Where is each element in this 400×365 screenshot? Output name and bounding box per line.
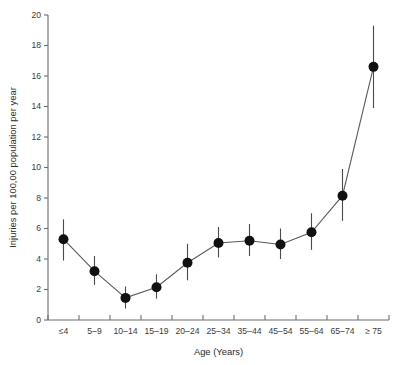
y-tick-label: 2 — [36, 284, 41, 294]
data-point-marker — [59, 234, 69, 244]
data-point-marker — [152, 282, 162, 292]
x-tick-label: 5–9 — [87, 326, 102, 336]
data-point-marker — [121, 293, 131, 303]
y-tick-label: 6 — [36, 223, 41, 233]
line-chart-plot: 02468101214161820≤45–910–1415–1920–2425–… — [0, 0, 400, 365]
x-tick-label: 10–14 — [114, 326, 138, 336]
y-tick-label: 0 — [36, 315, 41, 325]
y-tick-label: 4 — [36, 254, 41, 264]
data-point-marker — [245, 236, 255, 246]
y-tick-label: 10 — [31, 162, 41, 172]
data-point-marker — [338, 191, 348, 201]
y-tick-label: 18 — [31, 40, 41, 50]
x-tick-label: 20–24 — [176, 326, 200, 336]
data-point-marker — [90, 266, 100, 276]
x-tick-label: 25–34 — [207, 326, 231, 336]
chart-figure: 02468101214161820≤45–910–1415–1920–2425–… — [0, 0, 400, 365]
x-tick-label: ≤4 — [59, 326, 69, 336]
x-tick-label: 15–19 — [145, 326, 169, 336]
y-tick-label: 14 — [31, 101, 41, 111]
x-tick-label: 55–64 — [300, 326, 324, 336]
data-point-marker — [214, 238, 224, 248]
x-tick-label: ≥ 75 — [365, 326, 382, 336]
y-tick-label: 8 — [36, 193, 41, 203]
data-point-marker — [183, 258, 193, 268]
y-tick-label: 20 — [31, 10, 41, 20]
data-point-marker — [369, 62, 379, 72]
series-line — [64, 67, 374, 298]
data-point-marker — [276, 240, 286, 250]
x-axis-title: Age (Years) — [194, 346, 243, 357]
x-tick-label: 65–74 — [331, 326, 355, 336]
data-point-marker — [307, 227, 317, 237]
y-tick-label: 16 — [31, 71, 41, 81]
y-axis-title: Injuries per 100,00 population per year — [7, 87, 18, 248]
x-tick-label: 35–44 — [238, 326, 262, 336]
y-tick-label: 12 — [31, 132, 41, 142]
x-tick-label: 45–54 — [269, 326, 293, 336]
